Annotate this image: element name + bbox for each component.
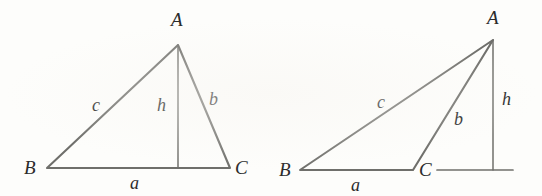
obtuse-side-label-c: c	[377, 93, 385, 111]
obtuse-side-label-a: a	[351, 176, 360, 194]
figure-canvas	[0, 0, 542, 196]
acute-vertex-label-b: B	[24, 158, 36, 177]
obtuse-triangle-group	[300, 40, 513, 170]
acute-triangle-group	[47, 45, 230, 168]
obtuse-triangle-outline	[300, 40, 493, 170]
acute-side-label-c: c	[92, 96, 100, 114]
obtuse-side-label-b: b	[454, 110, 463, 128]
obtuse-altitude-label-h: h	[502, 90, 511, 108]
acute-triangle-outline	[47, 45, 230, 168]
acute-side-label-b: b	[209, 90, 218, 108]
acute-altitude-label-h: h	[157, 96, 166, 114]
acute-vertex-label-c: C	[235, 158, 248, 177]
obtuse-vertex-label-a: A	[487, 8, 499, 27]
acute-vertex-label-a: A	[171, 10, 183, 29]
triangle-altitude-figure: A B C c h b a A B C c b h a	[0, 0, 542, 196]
obtuse-vertex-label-b: B	[279, 160, 291, 179]
acute-side-label-a: a	[130, 174, 139, 192]
obtuse-vertex-label-c: C	[419, 160, 432, 179]
